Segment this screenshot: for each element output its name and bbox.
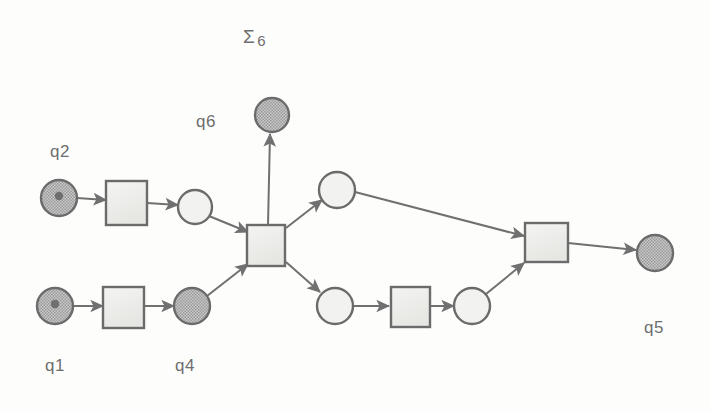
place-q4[interactable] [174, 288, 210, 324]
place-q6[interactable] [255, 98, 289, 132]
place-q2[interactable] [41, 180, 77, 216]
transition-lower-mid[interactable] [391, 287, 430, 327]
arc-t3-to-lower [286, 262, 320, 292]
petri-net-graphic [0, 0, 710, 412]
label-sigma6-base: Σ [243, 26, 255, 47]
place-circle [454, 288, 490, 324]
transition-box [247, 225, 285, 266]
place-circle-marked [637, 235, 673, 271]
place-circle-marked [174, 288, 210, 324]
place-lower-branch-2[interactable] [454, 288, 490, 324]
arc-q4-to-t3 [207, 264, 248, 296]
place-q1[interactable] [37, 288, 73, 324]
token-dot [55, 192, 63, 200]
arc-t3-to-q6 [268, 134, 270, 225]
transition-box [106, 181, 147, 225]
transition-right[interactable] [525, 223, 568, 262]
label-sigma6-subscript: 6 [255, 32, 266, 49]
place-circle [319, 172, 355, 208]
label-q1: q1 [45, 356, 65, 376]
transition-box [525, 223, 568, 262]
transition-box [103, 287, 144, 328]
label-q2: q2 [50, 142, 70, 162]
arc-q2-to-t1 [77, 198, 106, 200]
label-q5: q5 [644, 318, 664, 338]
arc-t3-to-upper [286, 200, 322, 228]
transition-top-left[interactable] [106, 181, 147, 225]
label-sigma6: Σ6 [243, 26, 266, 49]
place-p3[interactable] [178, 190, 212, 224]
arc-lower2-to-t5 [486, 263, 524, 294]
transition-box [391, 287, 430, 327]
arc-p3-to-t3 [209, 216, 248, 232]
diagram-canvas: Σ6q6q2q1q4q5 [0, 0, 710, 412]
label-q4: q4 [175, 356, 195, 376]
place-circle [178, 190, 212, 224]
label-q6: q6 [196, 112, 216, 132]
place-circle [317, 288, 353, 324]
place-upper-branch[interactable] [319, 172, 355, 208]
arc-upper-to-t5 [355, 192, 524, 236]
place-lower-branch-1[interactable] [317, 288, 353, 324]
place-circle-marked [255, 98, 289, 132]
place-q5[interactable] [637, 235, 673, 271]
arc-t5-to-q5 [568, 243, 636, 250]
transition-bottom-left[interactable] [103, 287, 144, 328]
transition-center[interactable] [247, 225, 285, 266]
token-dot [51, 300, 59, 308]
arc-t1-to-p3 [147, 203, 178, 205]
arcs-layer [73, 134, 636, 306]
